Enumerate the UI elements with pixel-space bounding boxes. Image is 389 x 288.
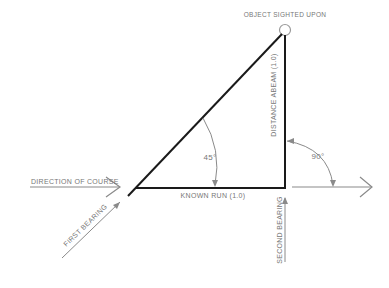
distance-abeam-label: DISTANCE ABEAM (1.0) [270,53,278,136]
angle-90-arrowhead-icon [330,180,336,187]
angle-45-label: 45° [204,153,217,162]
first-bearing-label: FIRST BEARING [62,203,108,248]
first-bearing-arrow [62,202,120,258]
angle-90-start-arrowhead-icon [287,138,294,144]
angle-45-arc [203,118,217,185]
angle-90-arc [287,141,333,185]
object-label: OBJECT SIGHTED UPON [244,11,327,18]
known-run-label: KNOWN RUN (1.0) [181,192,246,200]
hypotenuse-line [128,34,282,196]
second-bearing-label: SECOND BEARING [276,196,283,264]
bearing-diagram: OBJECT SIGHTED UPON DISTANCE ABEAM (1.0)… [0,0,389,288]
angle-90-label: 90° [312,152,325,161]
direction-of-course-label: DIRECTION OF COURSE [31,178,119,185]
angle-45-arrowhead-icon [212,180,218,187]
